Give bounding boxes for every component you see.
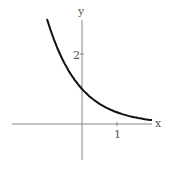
- y-axis-label: y: [78, 6, 84, 17]
- x-axis-label: x: [155, 118, 161, 129]
- curve-line: [47, 19, 152, 120]
- y-tick-label: 2: [73, 50, 80, 61]
- chart-plot: [0, 0, 173, 174]
- x-tick-label: 1: [114, 129, 121, 140]
